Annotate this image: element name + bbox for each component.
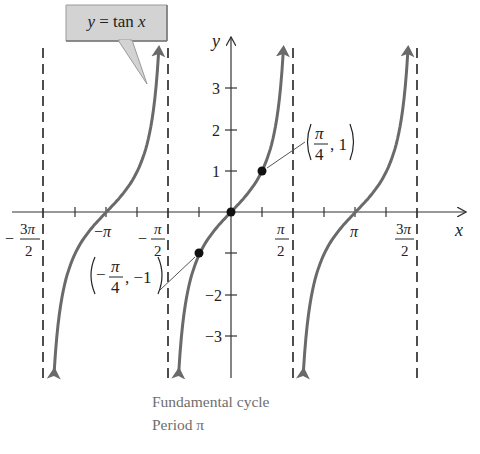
x-tick-labels: − 3π 2 −π − π 2 π 2 π 3π 2 [5, 221, 414, 259]
tan-graph: 3 2 1 −2 −3 y x − 3π 2 −π − π 2 π 2 π 3π… [0, 0, 480, 454]
svg-text:2: 2 [212, 122, 220, 139]
svg-text:π: π [315, 124, 324, 143]
svg-text:4: 4 [315, 145, 324, 164]
svg-text:−π: −π [94, 223, 112, 240]
point-label-pi-4-1: π 4 , 1 [308, 124, 354, 164]
svg-text:π: π [277, 221, 285, 237]
svg-text:π: π [111, 257, 120, 276]
svg-text:4: 4 [111, 278, 120, 297]
svg-text:π: π [154, 221, 162, 237]
svg-text:−3: −3 [205, 328, 222, 345]
svg-text:2: 2 [401, 243, 409, 259]
svg-text:, −1: , −1 [125, 268, 152, 287]
svg-text:−: − [138, 230, 147, 247]
callout-label: y = tan x [66, 5, 167, 39]
svg-text:1: 1 [212, 163, 220, 180]
svg-text:−: − [96, 265, 106, 284]
svg-text:, 1: , 1 [330, 135, 347, 154]
x-axis-label: x [454, 220, 463, 240]
point-neg-pi-4-neg-1 [195, 249, 204, 258]
svg-text:2: 2 [154, 243, 162, 259]
svg-text:2: 2 [25, 243, 33, 259]
svg-text:−: − [5, 230, 14, 247]
caption-period: Period π [152, 416, 204, 434]
svg-text:−2: −2 [205, 287, 222, 304]
svg-text:3: 3 [212, 80, 220, 97]
caption-fundamental-cycle: Fundamental cycle [152, 393, 270, 411]
svg-text:3π: 3π [396, 221, 412, 237]
point-label-neg-pi-4-neg-1: − π 4 , −1 [91, 257, 162, 297]
point-origin [227, 208, 236, 217]
svg-text:2: 2 [277, 243, 285, 259]
y-axis-label: y [210, 31, 220, 51]
svg-text:3π: 3π [20, 221, 36, 237]
point-pi-4-1 [258, 167, 267, 176]
svg-text:π: π [350, 223, 359, 240]
